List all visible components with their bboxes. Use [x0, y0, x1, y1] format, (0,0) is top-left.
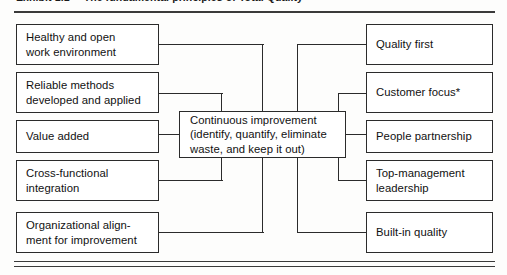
- connector-left-5-v: [262, 158, 263, 233]
- node-label: Built-in quality: [376, 225, 447, 239]
- node-label: Customer focus*: [376, 85, 460, 99]
- exhibit-number: Exhibit 1.1: [16, 0, 70, 3]
- node-label: People partnership: [376, 129, 472, 143]
- connector-left-3-h: [158, 134, 180, 135]
- connector-right-2-h: [338, 93, 367, 94]
- node-label: Organizational align- ment for improveme…: [26, 218, 137, 246]
- connector-left-2-h: [158, 93, 223, 94]
- connector-left-1-h: [158, 44, 264, 45]
- node-cross-functional-integration[interactable]: Cross-functional integration: [16, 160, 159, 201]
- connector-right-1-v: [297, 44, 298, 111]
- node-people-partnership[interactable]: People partnership: [366, 120, 493, 153]
- bottom-rule-upper: [14, 261, 495, 262]
- node-label: Continuous improvement (identify, quanti…: [190, 113, 327, 157]
- node-built-in-quality[interactable]: Built-in quality: [366, 212, 493, 253]
- connector-right-5-v: [297, 158, 298, 233]
- node-top-management-leadership[interactable]: Top-management leadership: [366, 160, 493, 201]
- connector-left-2-v: [221, 93, 222, 111]
- node-value-added[interactable]: Value added: [16, 120, 159, 153]
- connector-right-4-v: [338, 158, 339, 181]
- node-label: Reliable methods developed and applied: [26, 78, 141, 106]
- exhibit-title-text: The fundamental principles of Total Qual…: [84, 0, 303, 3]
- node-label: Healthy and open work environment: [26, 30, 116, 58]
- exhibit-title: Exhibit 1.1The fundamental principles of…: [16, 0, 486, 5]
- connector-right-2-v: [338, 93, 339, 111]
- connector-left-1-v: [262, 44, 263, 111]
- exhibit-figure: Exhibit 1.1The fundamental principles of…: [0, 0, 507, 275]
- connector-right-1-h: [297, 44, 367, 45]
- node-healthy-open-work-environment[interactable]: Healthy and open work environment: [16, 24, 159, 65]
- node-reliable-methods[interactable]: Reliable methods developed and applied: [16, 72, 159, 113]
- node-organizational-alignment[interactable]: Organizational align- ment for improveme…: [16, 212, 159, 253]
- node-label: Cross-functional integration: [26, 166, 108, 194]
- node-continuous-improvement[interactable]: Continuous improvement (identify, quanti…: [179, 111, 346, 158]
- connector-right-3-h: [345, 134, 367, 135]
- node-customer-focus[interactable]: Customer focus*: [366, 72, 493, 113]
- node-label: Quality first: [376, 37, 433, 51]
- connector-right-4-h: [338, 180, 367, 181]
- connector-left-4-h: [158, 180, 223, 181]
- bottom-rule-lower: [14, 266, 495, 267]
- top-rule: [14, 11, 495, 13]
- node-quality-first[interactable]: Quality first: [366, 24, 493, 65]
- node-label: Top-management leadership: [376, 166, 465, 194]
- connector-left-4-v: [221, 158, 222, 181]
- node-label: Value added: [26, 129, 89, 143]
- connector-left-5-h: [158, 232, 264, 233]
- connector-right-5-h: [297, 232, 367, 233]
